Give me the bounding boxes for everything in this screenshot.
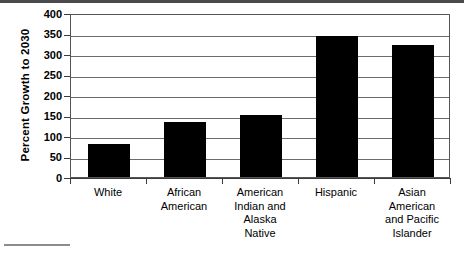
y-tick-label: 200 [30,91,62,102]
bar[interactable] [164,122,206,177]
x-category-label: AsianAmericanand PacificIslander [374,186,450,240]
y-tick-label: 300 [30,50,62,61]
x-category-label: AfricanAmerican [146,186,222,213]
x-category-label-line: Native [222,227,298,241]
x-category-label: White [70,186,146,200]
bar[interactable] [316,36,358,177]
y-tick-label: 250 [30,70,62,81]
y-axis-tick-labels: 050100150200250300350400 [30,14,62,178]
x-category-label: AmericanIndian andAlaskaNative [222,186,298,240]
y-tick-mark [64,137,70,138]
x-category-label-line: American [222,186,298,200]
y-tick-label: 400 [30,9,62,20]
bar[interactable] [88,144,130,177]
x-tick-mark [298,178,299,184]
x-axis-line [70,178,450,179]
bars-group [71,15,449,177]
x-category-label-line: American [374,200,450,214]
y-tick-label: 100 [30,132,62,143]
y-tick-mark [64,76,70,77]
x-category-label-line: Islander [374,227,450,241]
y-tick-mark [64,96,70,97]
x-category-label-line: White [70,186,146,200]
x-category-label-line: Hispanic [298,186,374,200]
x-category-label-line: American [146,200,222,214]
bar-chart-figure: Percent Growth to 2030 05010015020025030… [0,0,464,254]
x-category-label-line: Indian and [222,200,298,214]
y-tick-mark [64,14,70,15]
bar[interactable] [392,45,434,177]
y-tick-label: 0 [30,173,62,184]
x-tick-mark [450,178,451,184]
x-axis-category-labels: WhiteAfricanAmericanAmericanIndian andAl… [70,186,450,248]
y-tick-label: 50 [30,152,62,163]
x-tick-mark [70,178,71,184]
y-tick-mark [64,35,70,36]
y-tick-label: 350 [30,29,62,40]
y-tick-mark [64,158,70,159]
x-tick-mark [146,178,147,184]
y-tick-mark [64,117,70,118]
y-tick-mark [64,55,70,56]
x-tick-mark [222,178,223,184]
x-category-label-line: and Pacific [374,213,450,227]
x-category-label-line: Alaska [222,213,298,227]
y-tick-label: 150 [30,111,62,122]
x-category-label-line: African [146,186,222,200]
x-category-label: Hispanic [298,186,374,200]
plot-area [70,14,450,178]
x-category-label-line: Asian [374,186,450,200]
bottom-divider-rule [4,244,70,246]
bar[interactable] [240,115,282,177]
x-tick-mark [374,178,375,184]
